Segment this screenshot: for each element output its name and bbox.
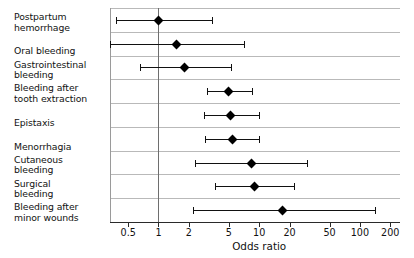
ci-cap-upper (252, 88, 253, 95)
row-label-line: bleeding (14, 189, 112, 200)
ci-cap-upper (307, 160, 308, 167)
grid-line (110, 56, 400, 57)
x-axis-title: Odds ratio (232, 240, 286, 252)
row-label: Menorrhagia (14, 142, 112, 153)
row-label: Oral bleeding (14, 46, 112, 57)
row-label-line: bleeding (14, 70, 112, 81)
ci-cap-upper (231, 64, 232, 71)
row-label-line: minor wounds (14, 213, 112, 224)
x-tick-label: 1 (155, 227, 161, 238)
grid-line (110, 151, 400, 152)
row-label-line: bleeding (14, 165, 112, 176)
x-tick-label: 50 (323, 227, 335, 238)
ci-cap-upper (259, 112, 260, 119)
ci-cap-lower (195, 160, 196, 167)
x-tick-label: 100 (351, 227, 369, 238)
x-tick-label: 0.5 (121, 227, 136, 238)
ci-cap-lower (204, 112, 205, 119)
row-label-line: Menorrhagia (14, 142, 112, 153)
ci-cap-lower (215, 183, 216, 190)
row-label: Epistaxis (14, 118, 112, 129)
ci-cap-upper (375, 207, 376, 214)
row-label: Cutaneousbleeding (14, 155, 112, 176)
row-label-line: Epistaxis (14, 118, 112, 129)
ci-cap-upper (259, 136, 260, 143)
ci-cap-upper (212, 17, 213, 24)
x-tick-label: 2 (186, 227, 192, 238)
row-label: Bleeding aftertooth extraction (14, 83, 112, 104)
ci-cap-lower (193, 207, 194, 214)
ci-cap-lower (207, 88, 208, 95)
x-tick-label: 10 (253, 227, 265, 238)
confidence-interval-line (116, 20, 212, 21)
ci-cap-lower (205, 136, 206, 143)
forest-plot-figure: PostpartumhemorrhageOral bleedingGastroi… (0, 0, 414, 258)
ci-cap-lower (116, 17, 117, 24)
x-tick-label: 20 (283, 227, 295, 238)
reference-line-or-1 (158, 8, 159, 222)
row-label-line: hemorrhage (14, 23, 112, 34)
row-label: Gastrointestinalbleeding (14, 60, 112, 81)
row-label-line: Oral bleeding (14, 46, 112, 57)
ci-cap-upper (294, 183, 295, 190)
grid-line (110, 79, 400, 80)
grid-line (110, 103, 400, 104)
grid-line (110, 174, 400, 175)
x-tick-label: 200 (381, 227, 399, 238)
ci-cap-upper (244, 41, 245, 48)
row-label: Bleeding afterminor wounds (14, 202, 112, 223)
row-label: Surgicalbleeding (14, 179, 112, 200)
grid-line (110, 127, 400, 128)
grid-line (110, 8, 400, 9)
x-tick-label: 5 (226, 227, 232, 238)
row-label: Postpartumhemorrhage (14, 12, 112, 33)
grid-line (110, 32, 400, 33)
grid-line (110, 198, 400, 199)
row-label-line: tooth extraction (14, 94, 112, 105)
ci-cap-lower (140, 64, 141, 71)
row-label-column: PostpartumhemorrhageOral bleedingGastroi… (0, 0, 110, 258)
ci-cap-lower (110, 41, 111, 48)
x-axis-line (110, 222, 400, 223)
